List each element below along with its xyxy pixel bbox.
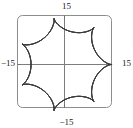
x-axis-max-label: 15 <box>122 59 131 68</box>
plot-canvas <box>0 0 133 128</box>
plot-figure: 15 −15 −15 15 <box>0 0 133 128</box>
x-axis-min-label: −15 <box>1 59 15 68</box>
y-axis-max-label: 15 <box>0 2 133 11</box>
y-axis-min-label: −15 <box>0 118 133 127</box>
